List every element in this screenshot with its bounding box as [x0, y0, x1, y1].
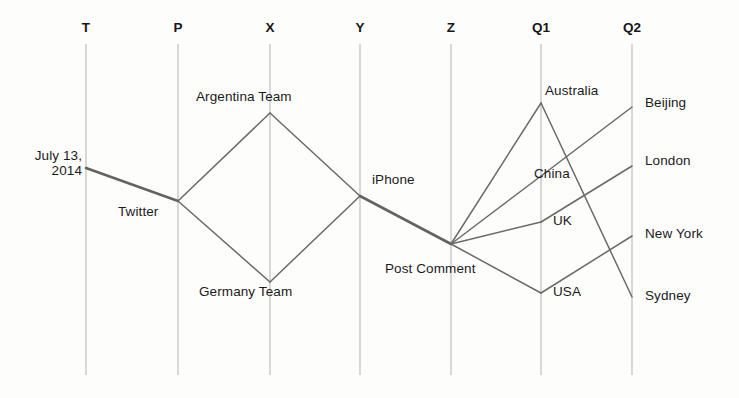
node-label-uk: UK — [553, 213, 572, 228]
node-label-iphone: iPhone — [372, 172, 415, 187]
diagram-canvas — [0, 0, 739, 398]
node-label-newyork: New York — [645, 226, 703, 241]
axis-label-q2: Q2 — [612, 20, 652, 35]
node-label-australia: Australia — [545, 83, 598, 98]
axis-label-t: T — [66, 20, 106, 35]
node-label-china: China — [534, 166, 570, 181]
axis-label-p: P — [158, 20, 198, 35]
node-label-argentina: Argentina Team — [196, 89, 292, 104]
edge-twitter-to-germany — [178, 201, 270, 282]
edge-postcomment-to-china — [451, 176, 541, 244]
edge-iphone-to-postcomment — [360, 196, 451, 244]
node-label-usa: USA — [553, 284, 581, 299]
edge-germany-to-iphone — [270, 196, 360, 282]
edge-postcomment-to-australia — [451, 103, 541, 244]
edge-line-group — [86, 103, 632, 297]
node-label-postcomment: Post Comment — [385, 261, 475, 276]
axis-label-y: Y — [340, 20, 380, 35]
axis-label-x: X — [250, 20, 290, 35]
node-label-germany: Germany Team — [199, 284, 292, 299]
axis-label-z: Z — [431, 20, 471, 35]
node-label-london: London — [645, 153, 691, 168]
node-label-july13: July 13, 2014 — [25, 148, 82, 178]
edge-australia-to-sydney — [541, 103, 632, 297]
edge-july13-to-twitter — [86, 168, 178, 201]
node-label-sydney: Sydney — [645, 288, 691, 303]
edge-twitter-to-argentina — [178, 113, 270, 201]
axis-label-q1: Q1 — [521, 20, 561, 35]
timeline-diagram: TPXYZQ1Q2 July 13, 2014TwitterArgentina … — [0, 0, 739, 398]
node-label-beijing: Beijing — [645, 95, 686, 110]
edge-argentina-to-iphone — [270, 113, 360, 196]
node-label-twitter: Twitter — [118, 204, 158, 219]
